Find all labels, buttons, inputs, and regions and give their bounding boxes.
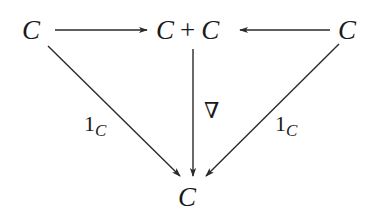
object-right: C	[338, 17, 356, 44]
coproduct-right: C	[201, 15, 219, 45]
identity-left-subscript: C	[95, 121, 106, 140]
arrow-right-to-bottom	[206, 44, 339, 176]
identity-label-right: 1C	[275, 113, 297, 135]
coproduct-plus: +	[174, 15, 201, 45]
object-left: C	[22, 17, 40, 44]
identity-label-left: 1C	[84, 113, 106, 135]
identity-right-base: 1	[275, 111, 286, 136]
coproduct-left: C	[156, 15, 174, 45]
identity-right-subscript: C	[286, 121, 297, 140]
object-coproduct: C+C	[156, 17, 219, 44]
object-bottom: C	[178, 184, 196, 211]
arrow-left-to-bottom	[48, 46, 180, 176]
identity-left-base: 1	[84, 111, 95, 136]
codiagonal-label: ∇	[204, 100, 219, 122]
